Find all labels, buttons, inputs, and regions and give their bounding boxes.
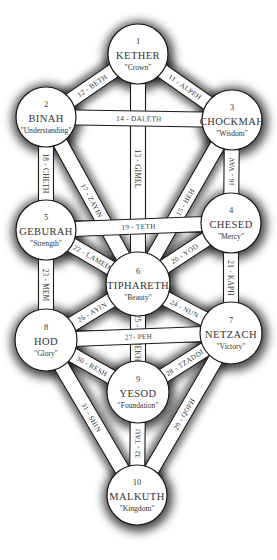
- sephirah-binah: 2BINAH"Understanding": [16, 87, 76, 147]
- path-label: 13 - GIMEL: [133, 150, 141, 189]
- sephirah-meaning: "Beauty": [124, 293, 152, 302]
- sephirah-malkuth: 10MALKUTH"Kingdom": [107, 465, 167, 525]
- path-label: 23 - MEM: [41, 269, 49, 302]
- path-label: 14 - DALETH: [116, 115, 161, 124]
- sephirah-name: GEBURAH: [19, 226, 73, 237]
- sephirah-netzach: 7NETZACH"Victory": [200, 302, 262, 364]
- sephirah-chesed: 4CHESED"Mercy": [201, 193, 261, 253]
- path-label: 21 - KAPH: [226, 260, 234, 295]
- sephirah-name: NETZACH: [205, 329, 257, 340]
- sephirah-meaning: "Kingdom": [120, 504, 155, 513]
- sephirah-number: 10: [133, 477, 142, 487]
- sephirah-number: 6: [136, 266, 140, 276]
- path-13: 13 - GIMEL: [131, 54, 146, 284]
- sephirah-meaning: "Strength": [30, 239, 62, 248]
- tree-of-life-diagram: 11 - ALPEH12 - BETH13 - GIMEL14 - DALETH…: [0, 0, 277, 560]
- sephirah-number: 5: [44, 212, 48, 222]
- sephirah-tiphareth: 6TIPHARETH"Beauty": [106, 252, 170, 316]
- sephirah-name: KETHER: [116, 50, 160, 61]
- sephirah-number: 2: [44, 99, 48, 109]
- path-label: 27- PEH: [125, 333, 152, 342]
- sephirah-name: BINAH: [28, 113, 63, 124]
- sephirah-name: CHOCKMAH: [200, 116, 264, 127]
- sephirah-meaning: "Foundation": [118, 401, 159, 410]
- sephirah-name: HOD: [34, 336, 58, 347]
- sephirah-number: 3: [230, 102, 234, 112]
- path-label: 18 - CHETH: [41, 153, 49, 193]
- sephirah-name: CHESED: [209, 219, 252, 230]
- sephirah-number: 8: [44, 322, 48, 332]
- sephirah-name: YESOD: [119, 388, 156, 399]
- sephirah-meaning: "Understanding": [21, 126, 72, 135]
- sephirah-number: 1: [136, 36, 140, 46]
- path-label: 19 - TETH: [121, 222, 155, 231]
- path-label: 32 - TAU: [134, 428, 142, 458]
- path-label: 16 - VAV: [228, 156, 236, 186]
- sephirah-meaning: "Victory": [217, 342, 246, 351]
- sephirah-geburah: 5GEBURAH"Strength": [16, 200, 76, 260]
- sephirah-kether: 1KETHER"Crown": [108, 24, 168, 84]
- sephirah-meaning: "Mercy": [218, 232, 244, 241]
- sephirah-yesod: 9YESOD"Foundation": [107, 361, 169, 423]
- sephirah-meaning: "Wisdom": [216, 129, 248, 138]
- sephirah-name: TIPHARETH: [107, 280, 169, 291]
- sephirah-meaning: "Glory": [34, 349, 58, 358]
- sephirah-hod: 8HOD"Glory": [15, 309, 77, 371]
- sephirah-number: 9: [136, 374, 140, 384]
- sephirah-name: MALKUTH: [109, 491, 164, 502]
- sephirah-number: 7: [229, 315, 233, 325]
- sephirah-meaning: "Crown": [125, 63, 152, 72]
